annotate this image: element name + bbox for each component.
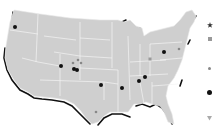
- us-map: [0, 0, 200, 127]
- legend-item-small-circle: [203, 63, 216, 73]
- marker-large-circle[interactable]: [99, 83, 103, 87]
- legend-item-triangle: [203, 113, 216, 123]
- marker-small-circle[interactable]: [72, 62, 75, 65]
- star-icon: [207, 22, 213, 28]
- marker-large-circle[interactable]: [13, 25, 17, 29]
- marker-small-circle[interactable]: [178, 48, 181, 51]
- marker-large-circle[interactable]: [59, 64, 63, 68]
- marker-large-circle[interactable]: [120, 86, 124, 90]
- marker-small-circle[interactable]: [80, 62, 83, 65]
- marker-large-circle[interactable]: [75, 68, 79, 72]
- legend-item-star: [203, 20, 216, 30]
- marker-square[interactable]: [149, 58, 152, 61]
- legend-item-large-circle: [203, 87, 216, 97]
- marker-small-circle[interactable]: [77, 59, 80, 62]
- us-landmass: [5, 10, 196, 124]
- legend-item-square: [203, 34, 216, 44]
- legend: [203, 18, 216, 127]
- small-circle-icon: [208, 67, 211, 70]
- triangle-down-icon: [207, 116, 212, 121]
- marker-small-circle[interactable]: [95, 111, 98, 114]
- marker-large-circle[interactable]: [162, 50, 166, 54]
- marker-large-circle[interactable]: [137, 79, 141, 83]
- square-icon: [208, 37, 212, 41]
- marker-large-circle[interactable]: [143, 75, 147, 79]
- large-circle-icon: [207, 90, 212, 95]
